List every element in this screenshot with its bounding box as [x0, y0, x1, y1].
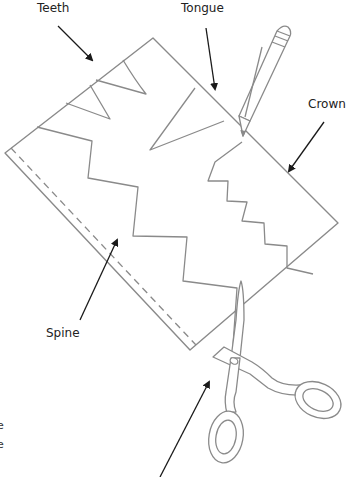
teeth-arrow — [58, 26, 92, 60]
label-tongue: Tongue — [181, 1, 224, 15]
label-teeth: Teeth — [37, 1, 69, 15]
label-crown: Crown — [308, 97, 346, 111]
crown-arrow — [289, 122, 324, 171]
tongue-arrow — [206, 28, 215, 89]
label-spine: Spine — [46, 326, 80, 340]
partial-text-2: e — [0, 438, 4, 451]
cut-arrow — [160, 382, 209, 477]
partial-text-1: e — [0, 419, 4, 432]
pencil-icon — [239, 26, 291, 136]
diagram-canvas — [0, 0, 356, 477]
